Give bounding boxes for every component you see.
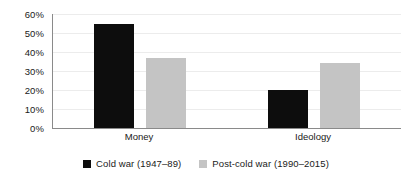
plot-area [52, 14, 401, 129]
y-axis-tick-label: 20% [25, 85, 44, 96]
y-axis: 0%10%20%30%40%50%60% [0, 0, 48, 145]
y-axis-tick-label: 10% [25, 104, 44, 115]
legend-item-label: Cold war (1947–89) [96, 158, 181, 169]
legend-swatch-gray-icon [199, 160, 207, 168]
plot-wrapper: 0%10%20%30%40%50%60% MoneyIdeology [0, 0, 412, 145]
y-axis-tick-label: 30% [25, 66, 44, 77]
legend-item[interactable]: Cold war (1947–89) [83, 158, 181, 169]
bar [146, 58, 186, 128]
y-axis-tick-label: 50% [25, 28, 44, 39]
legend-item-label: Post-cold war (1990–2015) [212, 158, 329, 169]
y-axis-tick-label: 40% [25, 47, 44, 58]
chart-legend: Cold war (1947–89)Post-cold war (1990–20… [0, 158, 412, 169]
bars-layer [53, 14, 401, 128]
legend-swatch-black-icon [83, 160, 91, 168]
bar-chart: 0%10%20%30%40%50%60% MoneyIdeology Cold … [0, 0, 412, 182]
y-axis-tick-label: 60% [25, 9, 44, 20]
bar [268, 90, 308, 128]
bar [94, 24, 134, 129]
y-axis-tick-label: 0% [30, 123, 44, 134]
bar [320, 63, 360, 128]
x-axis: MoneyIdeology [52, 131, 400, 147]
legend-item[interactable]: Post-cold war (1990–2015) [199, 158, 329, 169]
x-axis-tick-label: Ideology [295, 131, 331, 142]
x-axis-tick-label: Money [125, 131, 154, 142]
